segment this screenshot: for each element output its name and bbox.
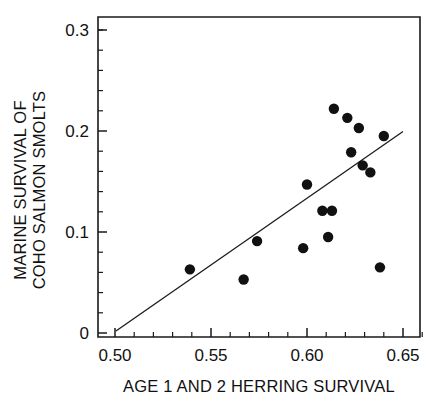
data-point xyxy=(357,160,367,170)
data-point xyxy=(375,262,385,272)
x-tick-label: 0.65 xyxy=(386,346,419,365)
y-tick-label: 0.3 xyxy=(65,21,89,40)
data-point xyxy=(317,206,327,216)
data-point xyxy=(252,236,262,246)
x-axis-ticks xyxy=(115,328,422,337)
data-point xyxy=(342,113,352,123)
data-point xyxy=(323,232,333,242)
data-point xyxy=(302,179,312,189)
data-point xyxy=(346,147,356,157)
scatter-plot-figure: 0.500.550.600.65 00.10.20.3 AGE 1 AND 2 … xyxy=(0,0,439,401)
data-points xyxy=(185,104,389,285)
data-point xyxy=(365,167,375,177)
y-tick-label: 0.2 xyxy=(65,122,89,141)
y-tick-label: 0.1 xyxy=(65,223,89,242)
y-axis-ticks xyxy=(98,30,107,333)
y-axis-title-line-1: MARINE SURVIVAL OF xyxy=(11,100,29,279)
data-point xyxy=(329,104,339,114)
x-tick-label: 0.55 xyxy=(194,346,227,365)
x-axis-title: AGE 1 AND 2 HERRING SURVIVAL xyxy=(123,377,395,395)
data-point xyxy=(298,243,308,253)
data-point xyxy=(185,264,195,274)
data-point xyxy=(379,131,389,141)
y-tick-label: 0 xyxy=(80,324,89,343)
y-axis-title-line-2: COHO SALMON SMOLTS xyxy=(30,91,48,290)
y-tick-labels: 00.10.20.3 xyxy=(65,21,89,343)
plot-canvas: 0.500.550.600.65 00.10.20.3 AGE 1 AND 2 … xyxy=(0,0,439,401)
x-tick-label: 0.50 xyxy=(98,346,131,365)
data-point xyxy=(354,123,364,133)
data-point xyxy=(327,206,337,216)
x-tick-labels: 0.500.550.600.65 xyxy=(98,346,419,365)
data-point xyxy=(238,274,248,284)
x-tick-label: 0.60 xyxy=(290,346,323,365)
